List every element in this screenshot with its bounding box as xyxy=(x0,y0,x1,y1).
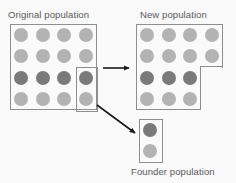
new-individual-r2c4 xyxy=(205,49,219,63)
new-individual-r3c3 xyxy=(183,71,197,85)
original-individual-r4c3 xyxy=(57,92,71,106)
original-individual-r1c1 xyxy=(14,28,28,42)
original-population-label: Original population xyxy=(8,10,89,20)
original-individual-r2c2 xyxy=(36,49,50,63)
new-individual-r2c2 xyxy=(162,49,176,63)
founder-effect-diagram: Original population New population Found… xyxy=(0,0,236,183)
new-individual-r3c2 xyxy=(162,71,176,85)
new-individual-r4c1 xyxy=(140,92,154,106)
founder-selection-rect[interactable] xyxy=(76,67,98,112)
new-individual-r1c4 xyxy=(205,28,219,42)
new-population-notch-mask xyxy=(137,66,200,69)
new-individual-r1c3 xyxy=(183,28,197,42)
original-individual-r3c1 xyxy=(14,71,28,85)
original-individual-r1c4 xyxy=(79,28,93,42)
new-individual-r4c2 xyxy=(162,92,176,106)
new-population-label: New population xyxy=(140,10,207,20)
original-individual-r3c2 xyxy=(36,71,50,85)
original-individual-r1c3 xyxy=(57,28,71,42)
new-individual-r4c3 xyxy=(183,92,197,106)
original-individual-r4c2 xyxy=(36,92,50,106)
founder-population-label: Founder population xyxy=(131,167,215,177)
original-individual-r1c2 xyxy=(36,28,50,42)
original-individual-r4c1 xyxy=(14,92,28,106)
new-population-notch-edge xyxy=(200,66,223,67)
new-individual-r3c1 xyxy=(140,71,154,85)
new-individual-r1c1 xyxy=(140,28,154,42)
original-individual-r2c4 xyxy=(79,49,93,63)
original-individual-r3c3 xyxy=(57,71,71,85)
new-individual-r1c2 xyxy=(162,28,176,42)
founder-individual-r1c1 xyxy=(143,123,157,137)
arrow-to-founder-population-icon xyxy=(97,105,135,133)
